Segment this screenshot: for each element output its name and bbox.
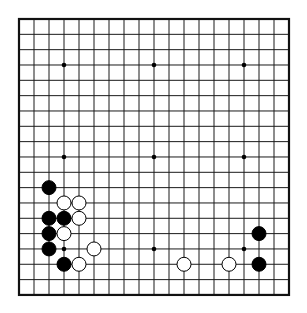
black-stone[interactable]	[42, 242, 56, 256]
white-stone[interactable]	[72, 257, 86, 271]
white-stone[interactable]	[222, 257, 236, 271]
white-stone[interactable]	[57, 227, 71, 241]
white-stone[interactable]	[72, 211, 86, 225]
star-point-icon	[242, 247, 247, 252]
white-stone[interactable]	[177, 257, 191, 271]
white-stone[interactable]	[57, 196, 71, 210]
black-stone[interactable]	[42, 227, 56, 241]
star-point-icon	[242, 155, 247, 160]
black-stone[interactable]	[57, 211, 71, 225]
star-point-icon	[62, 63, 67, 68]
go-board[interactable]	[0, 0, 307, 313]
black-stone[interactable]	[252, 227, 266, 241]
star-point-icon	[62, 155, 67, 160]
white-stone[interactable]	[72, 196, 86, 210]
black-stone[interactable]	[42, 211, 56, 225]
star-point-icon	[62, 247, 67, 252]
star-point-icon	[152, 247, 157, 252]
star-point-icon	[152, 155, 157, 160]
black-stone[interactable]	[252, 257, 266, 271]
star-point-icon	[152, 63, 157, 68]
black-stone[interactable]	[42, 181, 56, 195]
star-point-icon	[242, 63, 247, 68]
white-stone[interactable]	[87, 242, 101, 256]
black-stone[interactable]	[57, 257, 71, 271]
go-board-grid[interactable]	[0, 0, 307, 313]
